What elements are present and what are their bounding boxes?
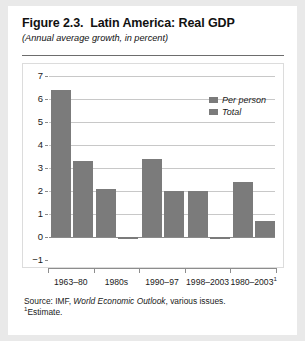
x-axis-category-label: 1980–20031 bbox=[230, 277, 276, 287]
x-axis-tick bbox=[94, 268, 95, 273]
x-axis-tick bbox=[48, 268, 49, 273]
chart-plot-area: 76543210−1 Per personTotal bbox=[22, 63, 284, 268]
x-axis-category-label: 1963–80 bbox=[48, 277, 94, 287]
y-axis-tick-mark bbox=[45, 168, 48, 169]
y-axis-tick-mark bbox=[45, 145, 48, 146]
estimate-footnote: 1Estimate. bbox=[24, 307, 289, 318]
bar bbox=[164, 191, 184, 237]
x-axis-labels: 1963–801980s1990–971998–20031980–20031 bbox=[22, 277, 284, 289]
figure-header: Figure 2.3. Latin America: Real GDP (Ann… bbox=[22, 16, 284, 44]
y-axis-tick-label: 5 bbox=[23, 117, 43, 127]
x-label-footnote-marker: 1 bbox=[273, 275, 276, 282]
bar bbox=[210, 237, 230, 239]
chart-legend: Per personTotal bbox=[209, 94, 266, 118]
bar bbox=[73, 161, 93, 237]
y-axis-tick-label: 6 bbox=[23, 94, 43, 104]
y-axis-tick-label: 1 bbox=[23, 209, 43, 219]
x-axis-category-label: 1980s bbox=[94, 277, 140, 287]
figure-footer: Source: IMF, World Economic Outlook, var… bbox=[24, 296, 289, 318]
x-axis-category-label: 1990–97 bbox=[139, 277, 185, 287]
legend-swatch-icon bbox=[209, 97, 218, 103]
bar bbox=[233, 182, 253, 237]
y-axis-tick-mark bbox=[45, 260, 48, 261]
gridline-0 bbox=[49, 237, 275, 238]
x-axis-tick bbox=[276, 268, 277, 273]
y-axis-tick-label: 0 bbox=[23, 232, 43, 242]
legend-item: Total bbox=[209, 106, 266, 117]
y-axis-tick-mark bbox=[45, 99, 48, 100]
legend-swatch-icon bbox=[209, 109, 218, 115]
footnote-text: Estimate. bbox=[27, 307, 62, 317]
legend-label: Per person bbox=[222, 95, 266, 105]
y-axis-tick-label: 2 bbox=[23, 186, 43, 196]
source-prefix: Source: IMF, bbox=[24, 296, 73, 306]
bar bbox=[96, 189, 116, 237]
bar bbox=[118, 237, 138, 239]
bar bbox=[51, 90, 71, 237]
y-axis-tick-mark bbox=[45, 214, 48, 215]
x-axis-category-label: 1998–2003 bbox=[185, 277, 231, 287]
gridline-5 bbox=[49, 122, 275, 123]
x-axis-tick bbox=[139, 268, 140, 273]
header-divider bbox=[22, 55, 284, 56]
y-axis-tick-mark bbox=[45, 122, 48, 123]
source-note: Source: IMF, World Economic Outlook, var… bbox=[24, 296, 289, 307]
x-axis-ruler bbox=[22, 268, 284, 277]
bar bbox=[255, 221, 275, 237]
y-axis-tick-label: 4 bbox=[23, 140, 43, 150]
x-axis-tick bbox=[185, 268, 186, 273]
gridline-4 bbox=[49, 145, 275, 146]
legend-label: Total bbox=[222, 107, 241, 117]
y-axis-tick-label: −1 bbox=[23, 255, 43, 265]
y-axis-tick-mark bbox=[45, 191, 48, 192]
figure-subtitle: (Annual average growth, in percent) bbox=[22, 33, 284, 44]
page-title: Figure 2.3. Latin America: Real GDP bbox=[22, 16, 284, 30]
y-axis-tick-label: 3 bbox=[23, 163, 43, 173]
bar bbox=[142, 159, 162, 237]
x-axis-line bbox=[48, 268, 276, 269]
figure-card: Figure 2.3. Latin America: Real GDP (Ann… bbox=[8, 6, 297, 335]
legend-item: Per person bbox=[209, 94, 266, 105]
bar bbox=[188, 191, 208, 237]
y-axis-tick-label: 7 bbox=[23, 71, 43, 81]
source-publication: World Economic Outlook bbox=[73, 296, 165, 306]
y-axis-tick-mark bbox=[45, 237, 48, 238]
gridline-7 bbox=[49, 76, 275, 77]
source-suffix: , various issues. bbox=[166, 296, 226, 306]
y-axis-tick-mark bbox=[45, 76, 48, 77]
x-axis-tick bbox=[230, 268, 231, 273]
